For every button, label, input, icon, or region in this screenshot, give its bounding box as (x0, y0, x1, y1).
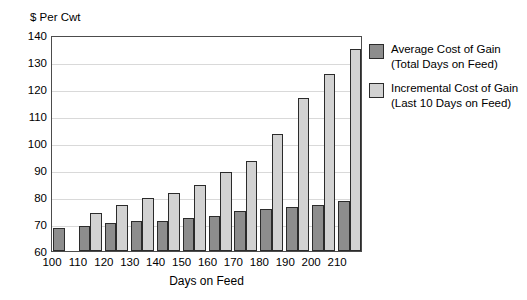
bar-group (104, 37, 130, 251)
bar-incremental-cost (324, 74, 336, 251)
legend-label-incremental-line2: (Last 10 Days on Feed) (391, 96, 527, 111)
y-tick-label: 80 (3, 192, 47, 204)
plot-area (51, 36, 362, 252)
bar-group (78, 37, 104, 251)
bar-incremental-cost (272, 134, 284, 251)
x-tick-label: 170 (224, 255, 243, 269)
bars-layer (52, 37, 361, 251)
y-axis-unit-label: $ Per Cwt (30, 10, 81, 24)
x-tick-label: 110 (69, 255, 87, 269)
y-tick-label: 60 (3, 246, 47, 258)
x-tick-label: 210 (327, 255, 346, 269)
bar-group (259, 37, 285, 251)
x-tick-label: 150 (172, 255, 191, 269)
bar-incremental-cost (194, 185, 206, 251)
x-tick-label: 130 (120, 255, 139, 269)
bar-incremental-cost (142, 198, 154, 251)
bar-group (285, 37, 311, 251)
x-tick-label: 200 (302, 255, 321, 269)
bar-incremental-cost (90, 213, 102, 251)
y-tick-label: 110 (3, 111, 47, 123)
bar-group (233, 37, 259, 251)
bar-average-cost (286, 207, 298, 251)
y-tick-label: 120 (3, 84, 47, 96)
legend-entry-average: Average Cost of Gain (Total Days on Feed… (369, 42, 527, 72)
y-axis-tick-labels: 60708090100110120130140 (0, 36, 47, 252)
y-tick-label: 140 (3, 30, 47, 42)
bar-average-cost (79, 226, 91, 251)
bar-incremental-cost (116, 205, 128, 251)
bar-average-cost (157, 221, 169, 252)
legend-swatch-average-icon (369, 44, 384, 59)
bar-group (182, 37, 208, 251)
y-tick-label: 70 (3, 219, 47, 231)
y-tick-label: 90 (3, 165, 47, 177)
legend-entry-incremental: Incremental Cost of Gain (Last 10 Days o… (369, 81, 527, 111)
bar-average-cost (338, 201, 350, 251)
bar-average-cost (312, 205, 324, 251)
x-tick-label: 160 (198, 255, 217, 269)
legend-label-average-line2: (Total Days on Feed) (391, 57, 527, 72)
chart-figure: $ Per Cwt 60708090100110120130140 100110… (0, 0, 527, 300)
chart-legend: Average Cost of Gain (Total Days on Feed… (369, 42, 527, 120)
y-tick-label: 100 (3, 138, 47, 150)
x-tick-label: 140 (146, 255, 165, 269)
y-tick-label: 130 (3, 57, 47, 69)
bar-group (130, 37, 156, 251)
bar-incremental-cost (220, 172, 232, 251)
bar-group (156, 37, 182, 251)
bar-incremental-cost (298, 98, 310, 251)
x-tick-label: 120 (94, 255, 113, 269)
x-tick-label: 100 (42, 255, 61, 269)
bar-average-cost (53, 228, 65, 251)
bar-incremental-cost (350, 49, 362, 252)
x-tick-label: 190 (276, 255, 295, 269)
x-tick-label: 180 (250, 255, 269, 269)
x-axis-tick-labels: 100110120130140150160170180190200210 (51, 255, 362, 271)
bar-average-cost (183, 218, 195, 251)
legend-label-average: Average Cost of Gain (Total Days on Feed… (391, 42, 527, 71)
bar-average-cost (234, 211, 246, 251)
legend-swatch-incremental-icon (369, 83, 384, 98)
legend-label-incremental: Incremental Cost of Gain (Last 10 Days o… (391, 81, 527, 110)
bar-incremental-cost (246, 161, 258, 251)
bar-average-cost (209, 216, 221, 251)
bar-average-cost (131, 221, 143, 252)
bar-incremental-cost (168, 193, 180, 251)
bar-group (311, 37, 337, 251)
bar-average-cost (260, 209, 272, 251)
bar-group (208, 37, 234, 251)
bar-average-cost (105, 223, 117, 251)
bar-group (337, 37, 362, 251)
legend-label-incremental-line1: Incremental Cost of Gain (391, 81, 527, 96)
x-axis-title: Days on Feed (51, 274, 362, 288)
bar-group (52, 37, 78, 251)
legend-label-average-line1: Average Cost of Gain (391, 42, 527, 57)
